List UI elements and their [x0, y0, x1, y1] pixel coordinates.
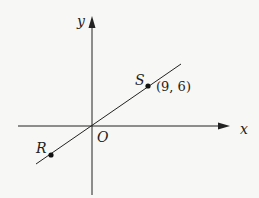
y-axis-arrow-icon: [89, 16, 96, 28]
origin-label: O: [97, 129, 109, 145]
point-r: [48, 152, 53, 157]
point-s: [145, 83, 150, 88]
point-s-label: S: [135, 72, 145, 88]
point-s-coords: (9, 6): [156, 79, 191, 94]
y-axis-label: y: [76, 13, 86, 29]
x-axis-arrow-icon: [218, 123, 230, 130]
diagram-svg: y x O S (9, 6) R: [0, 0, 259, 198]
x-axis-label: x: [240, 121, 248, 137]
point-r-label: R: [35, 140, 47, 156]
coordinate-diagram: y x O S (9, 6) R: [0, 0, 259, 198]
